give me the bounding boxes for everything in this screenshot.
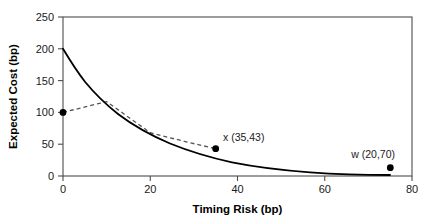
x-axis-tick-labels: 0 20 40 60 80: [60, 183, 418, 195]
series-line-frontier: [63, 49, 390, 175]
point-annotations: x (35,43) w (20,70): [223, 131, 395, 160]
y-tick-label-150: 150: [36, 75, 54, 87]
annotation-point-w: w (20,70): [350, 148, 395, 160]
x-tick-label-60: 60: [319, 183, 331, 195]
y-tick-label-0: 0: [48, 170, 54, 182]
y-tick-label-50: 50: [42, 138, 54, 150]
x-tick-label-40: 40: [231, 183, 243, 195]
y-axis-tick-labels: 0 50 100 150 200 250: [36, 11, 54, 182]
x-tick-label-0: 0: [60, 183, 66, 195]
series-line-reference: [63, 102, 216, 149]
y-tick-label-200: 200: [36, 43, 54, 55]
y-axis-ticks: [58, 17, 63, 176]
marker-point-x: [212, 145, 219, 152]
marker-point-w: [387, 164, 394, 171]
x-axis-ticks: [63, 176, 412, 181]
x-tick-label-80: 80: [406, 183, 418, 195]
y-tick-label-250: 250: [36, 11, 54, 23]
y-tick-label-100: 100: [36, 106, 54, 118]
marker-origin-point: [60, 109, 67, 116]
chart-figure: 0 50 100 150 200 250 0 20 40 60 80: [0, 0, 428, 223]
chart-canvas: 0 50 100 150 200 250 0 20 40 60 80: [0, 0, 428, 223]
x-tick-label-20: 20: [144, 183, 156, 195]
x-axis-title: Timing Risk (bp): [193, 203, 283, 215]
y-axis-title: Expected Cost (bp): [7, 44, 19, 149]
annotation-point-x: x (35,43): [223, 131, 264, 143]
